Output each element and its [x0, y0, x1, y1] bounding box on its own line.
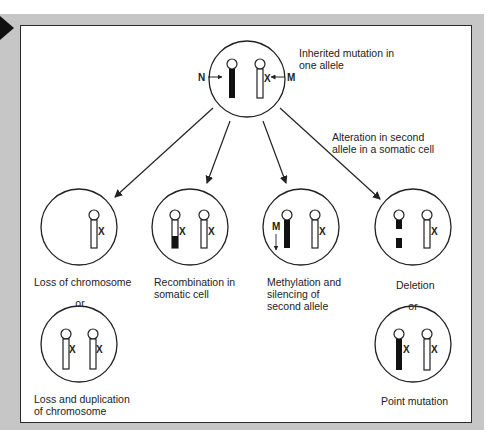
arrow-to-recombination	[207, 121, 230, 183]
point-mutation-caption: Point mutation	[381, 395, 448, 407]
recombination-caption: Recombination in somatic cell	[154, 276, 235, 300]
arrow-to-methylation	[263, 121, 286, 183]
cell-deletion	[375, 189, 451, 265]
duplication-mutation-mark-2: X	[96, 344, 103, 356]
loss-mutation-mark: X	[98, 226, 105, 238]
mutant-allele-label: M	[287, 72, 295, 84]
alteration-caption: Alteration in second allele in a somatic…	[332, 131, 434, 155]
cell-recombination	[152, 189, 228, 265]
duplication-mutation-mark-1: X	[69, 344, 76, 356]
methylation-mutation-mark: X	[319, 226, 326, 238]
recombination-mutation-mark-1: X	[179, 226, 186, 238]
or-connector-right: or	[403, 300, 423, 312]
methylation-caption: Methylation and silencing of second alle…	[267, 276, 341, 312]
cell-loss-and-duplication	[41, 306, 117, 382]
top-cell	[208, 41, 285, 117]
recombination-mutation-mark-2: X	[208, 226, 215, 238]
deletion-caption: Deletion	[396, 279, 430, 291]
loss-caption: Loss of chromosome	[34, 276, 131, 288]
arrow-to-loss	[115, 108, 213, 197]
point-mutation-mark-1: X	[403, 344, 410, 356]
point-mutation-mark-2: X	[431, 344, 438, 356]
inherited-mutation-caption: Inherited mutation in one allele	[299, 47, 394, 71]
deletion-mutation-mark: X	[431, 226, 438, 238]
cell-loss-of-chromosome	[41, 189, 117, 265]
loss-duplication-caption: Loss and duplication of chromosome	[34, 393, 130, 417]
normal-allele-label: N	[198, 72, 205, 84]
cell-point-mutation	[375, 306, 451, 382]
methylation-label: M	[272, 221, 280, 233]
mutation-diagram	[0, 0, 488, 436]
top-mutation-mark: X	[264, 73, 271, 85]
or-connector-left: or	[70, 297, 90, 309]
